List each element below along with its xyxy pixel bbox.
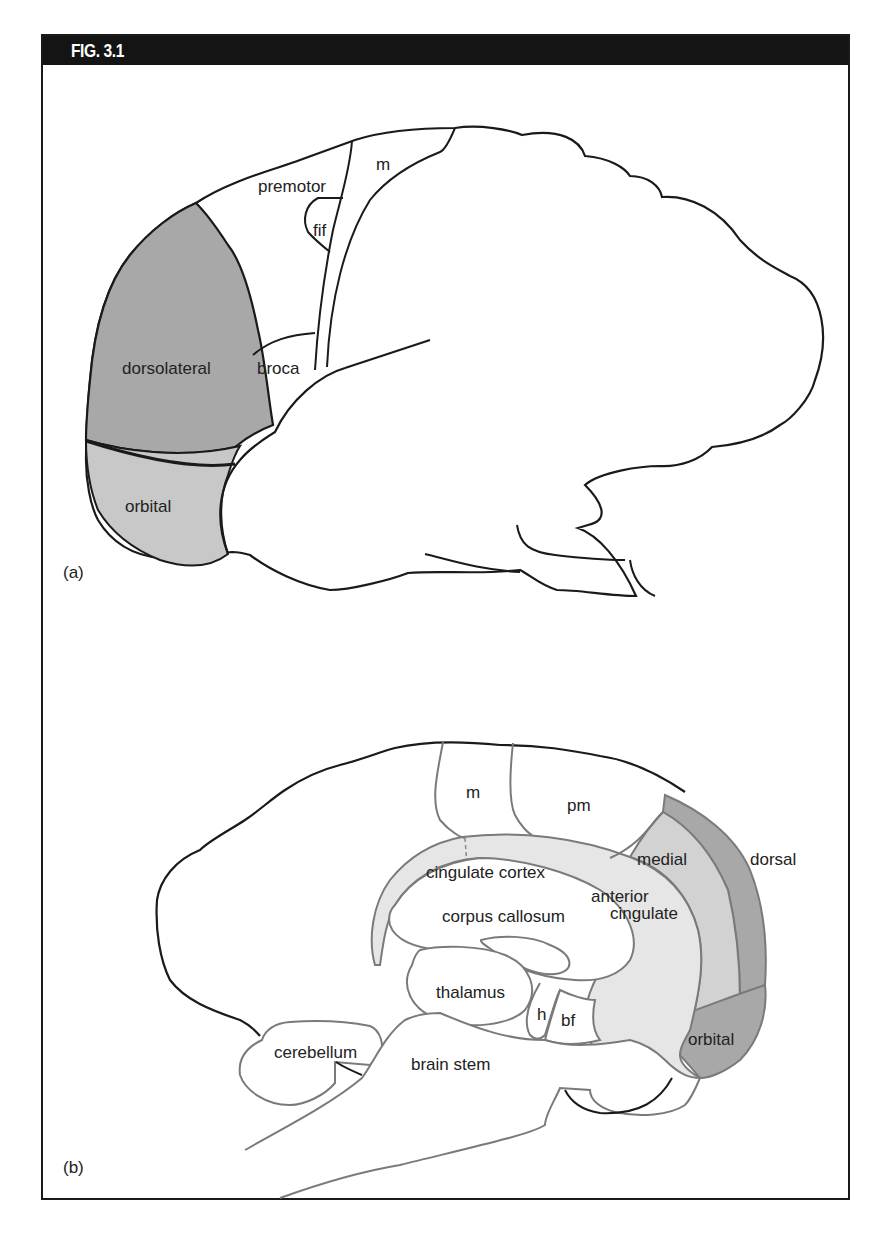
label-b-brain-stem: brain stem <box>411 1055 490 1074</box>
label-b-hypothalamus: h <box>537 1005 546 1024</box>
label-b-motor: m <box>466 783 480 802</box>
panel-b-motor-boundary-right <box>510 743 532 835</box>
label-b-cingulate-cortex: cingulate cortex <box>426 863 546 882</box>
panel-b-medial-brain: m pm cingulate cortex corpus callosum an… <box>0 0 874 1243</box>
label-b-corpus-callosum: corpus callosum <box>442 907 565 926</box>
panel-b-label: (b) <box>63 1158 84 1177</box>
label-b-premotor: pm <box>567 796 591 815</box>
label-b-basal-forebrain: bf <box>561 1011 575 1030</box>
label-b-orbital: orbital <box>688 1030 734 1049</box>
label-b-thalamus: thalamus <box>436 983 505 1002</box>
label-b-cerebellum: cerebellum <box>274 1043 357 1062</box>
panel-b-motor-boundary-left <box>435 742 465 838</box>
label-b-medial: medial <box>637 850 687 869</box>
label-b-dorsal: dorsal <box>750 850 796 869</box>
label-b-cingulate: cingulate <box>610 904 678 923</box>
